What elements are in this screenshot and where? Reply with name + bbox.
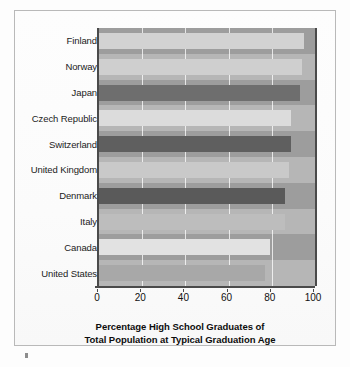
category-axis-labels: FinlandNorwayJapanCzech RepublicSwitzerl…	[18, 28, 97, 286]
category-label: United Kingdom	[31, 164, 97, 175]
category-label: Japan	[72, 87, 97, 98]
category-label: Norway	[65, 61, 97, 72]
bar	[99, 33, 304, 49]
category-label: Canada	[64, 242, 97, 253]
category-label: Italy	[80, 216, 97, 227]
x-axis-title: Percentage High School Graduates of Tota…	[40, 321, 320, 346]
tick-label: 80	[264, 292, 275, 303]
chart-figure: FinlandNorwayJapanCzech RepublicSwitzerl…	[0, 0, 350, 367]
bar	[99, 265, 265, 281]
tick-label: 20	[135, 292, 146, 303]
x-axis-line	[95, 286, 315, 288]
category-label-row: United States	[18, 260, 97, 286]
category-label: United States	[41, 268, 97, 279]
tick-label: 40	[178, 292, 189, 303]
category-label-row: Japan	[18, 80, 97, 106]
bar	[99, 188, 285, 204]
plot-inner	[99, 28, 315, 286]
category-label-row: Czech Republic	[18, 105, 97, 131]
category-label-row: Denmark	[18, 183, 97, 209]
x-axis-title-line1: Percentage High School Graduates of	[40, 321, 320, 334]
bar	[99, 162, 289, 178]
bar	[99, 85, 300, 101]
print-speck-artifact	[25, 353, 28, 358]
category-label-row: Italy	[18, 209, 97, 235]
bar	[99, 214, 285, 230]
category-label-row: Canada	[18, 234, 97, 260]
bar	[99, 59, 302, 75]
x-axis-title-line2: Total Population at Typical Graduation A…	[40, 334, 320, 347]
bar	[99, 136, 291, 152]
plot-area	[97, 28, 317, 286]
x-axis-ticks: 020406080100	[97, 289, 313, 303]
bar	[99, 110, 291, 126]
bar	[99, 239, 270, 255]
category-label: Denmark	[59, 190, 97, 201]
tick-label: 0	[94, 292, 100, 303]
category-label-row: Switzerland	[18, 131, 97, 157]
tick-label: 100	[305, 292, 322, 303]
category-label-row: Norway	[18, 54, 97, 80]
category-label: Switzerland	[49, 139, 97, 150]
category-label: Czech Republic	[32, 113, 97, 124]
tick-label: 60	[221, 292, 232, 303]
category-label-row: Finland	[18, 28, 97, 54]
category-label: Finland	[67, 35, 97, 46]
category-label-row: United Kingdom	[18, 157, 97, 183]
